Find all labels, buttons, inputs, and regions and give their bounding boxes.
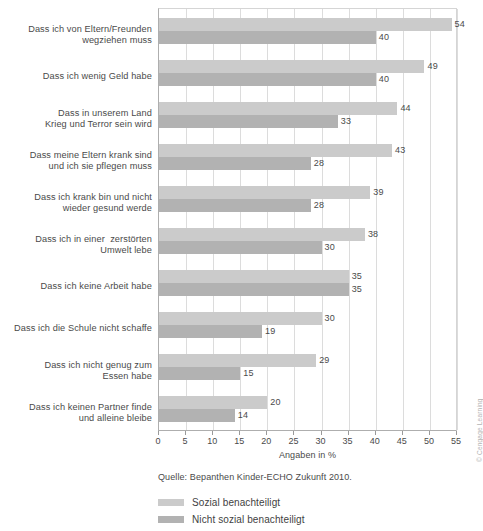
x-tick [429,431,430,435]
bar-value-label: 49 [427,60,437,73]
x-tick-label: 0 [155,436,160,446]
x-tick [321,431,322,435]
x-axis: 0510152025303540455055 [158,431,457,451]
bar [159,199,311,212]
category-label-text: Dass in unserem Land Krieg und Terror se… [4,108,152,131]
bar-group: 4328 [159,141,456,183]
legend-swatch [158,499,184,506]
bar-value-label: 54 [455,18,465,31]
category-label: Dass ich keine Arbeit habe [0,266,152,308]
bar-value-label: 35 [352,270,362,283]
bar [159,312,322,325]
bar [159,270,349,283]
bar-value-label: 38 [368,228,378,241]
bar-value-label: 43 [395,144,405,157]
bar [159,115,338,128]
bar-value-label: 28 [314,199,324,212]
copyright-credit: © Cengage Learning [476,398,483,462]
x-tick-label: 40 [370,436,380,446]
bar-value-label: 33 [341,115,351,128]
x-tick [293,431,294,435]
x-tick [266,431,267,435]
x-tick-label: 30 [316,436,326,446]
source-note: Quelle: Bepanthen Kinder-ECHO Zukunft 20… [158,472,352,482]
bar-group: 3535 [159,267,456,309]
category-label-text: Dass ich wenig Geld habe [4,71,152,83]
category-label: Dass ich keinen Partner finde und allein… [0,392,152,434]
x-axis-title: Angaben in % [158,450,457,460]
category-label: Dass ich krank bin und nicht wieder gesu… [0,182,152,224]
legend-swatch [158,516,184,523]
bar-group: 4940 [159,57,456,99]
category-label-text: Dass ich in einer zerstörten Umwelt lebe [4,234,152,257]
x-tick [402,431,403,435]
category-label-text: Dass ich keine Arbeit habe [4,281,152,293]
bar [159,354,316,367]
bar [159,396,267,409]
x-tick [185,431,186,435]
x-tick [212,431,213,435]
bar-group: 3830 [159,225,456,267]
x-tick-label: 15 [234,436,244,446]
x-tick [456,431,457,435]
x-tick [239,431,240,435]
x-tick-label: 10 [207,436,217,446]
x-tick-label: 45 [397,436,407,446]
x-tick-label: 35 [343,436,353,446]
bar-value-label: 28 [314,157,324,170]
category-label-text: Dass ich keinen Partner finde und allein… [4,402,152,425]
bar-value-label: 20 [270,396,280,409]
x-tick-label: 20 [261,436,271,446]
legend: Sozial benachteiligtNicht sozial benacht… [158,494,418,528]
bar-group: 2014 [159,393,456,435]
bar-value-label: 40 [379,73,389,86]
category-axis-labels: Dass ich von Eltern/Freunden wegziehen m… [0,8,152,431]
bar-value-label: 30 [325,241,335,254]
bar-value-label: 30 [325,312,335,325]
bar [159,325,262,338]
x-tick-label: 55 [451,436,461,446]
bar [159,367,240,380]
legend-label: Sozial benachteiligt [192,497,280,508]
x-tick-label: 25 [288,436,298,446]
category-label: Dass in unserem Land Krieg und Terror se… [0,98,152,140]
bar-value-label: 15 [243,367,253,380]
bar [159,157,311,170]
bar [159,241,322,254]
bar [159,60,424,73]
category-label: Dass ich in einer zerstörten Umwelt lebe [0,224,152,266]
bar-value-label: 39 [373,186,383,199]
bar [159,31,376,44]
category-label: Dass ich wenig Geld habe [0,56,152,98]
x-tick-label: 50 [424,436,434,446]
copyright-text: © Cengage Learning [476,398,483,462]
bar-group: 5440 [159,15,456,57]
bar [159,228,365,241]
bar [159,409,235,422]
bar-value-label: 40 [379,31,389,44]
bar-value-label: 29 [319,354,329,367]
bar-group: 2915 [159,351,456,393]
bar [159,102,397,115]
category-label-text: Dass ich von Eltern/Freunden wegziehen m… [4,24,152,47]
bar-value-label: 19 [265,325,275,338]
legend-item[interactable]: Nicht sozial benachteiligt [158,511,418,528]
legend-label: Nicht sozial benachteiligt [192,514,305,525]
x-tick-label: 5 [183,436,188,446]
plot-area: 5440494044334328392838303535301929152014 [158,8,457,431]
bar [159,144,392,157]
bar-value-label: 14 [238,409,248,422]
category-label-text: Dass ich die Schule nicht schaffe [4,323,152,335]
legend-item[interactable]: Sozial benachteiligt [158,494,418,511]
category-label-text: Dass ich nicht genug zum Essen habe [4,360,152,383]
category-label: Dass meine Eltern krank sind und ich sie… [0,140,152,182]
category-label: Dass ich von Eltern/Freunden wegziehen m… [0,14,152,56]
x-tick [158,431,159,435]
bar-group: 4433 [159,99,456,141]
category-label: Dass ich nicht genug zum Essen habe [0,350,152,392]
category-label: Dass ich die Schule nicht schaffe [0,308,152,350]
bar [159,18,452,31]
x-tick [375,431,376,435]
category-label-text: Dass ich krank bin und nicht wieder gesu… [4,192,152,215]
